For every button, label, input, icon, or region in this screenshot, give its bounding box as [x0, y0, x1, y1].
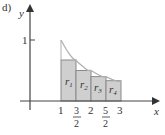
part-label: d) — [2, 1, 12, 14]
x-axis-label: x — [153, 105, 159, 117]
svg-text:3: 3 — [74, 105, 79, 116]
x-tick-label-3: 3 — [117, 104, 123, 116]
x-tick-label-3-2: 3 2 — [73, 105, 81, 129]
x-tick-label-2: 2 — [88, 104, 94, 116]
y-axis-label: y — [18, 7, 24, 19]
x-tick-label-1: 1 — [58, 104, 64, 116]
svg-text:2: 2 — [74, 118, 79, 129]
svg-text:5: 5 — [103, 105, 108, 116]
svg-text:2: 2 — [103, 118, 108, 129]
y-tick-label-1: 1 — [22, 34, 28, 46]
x-tick-label-5-2: 5 2 — [102, 105, 110, 129]
figure-canvas: r1 r2 r3 r4 d) y x 1 1 3 2 2 5 2 3 — [0, 0, 165, 135]
riemann-sum-figure: r1 r2 r3 r4 d) y x 1 1 3 2 2 5 2 3 — [0, 0, 165, 135]
